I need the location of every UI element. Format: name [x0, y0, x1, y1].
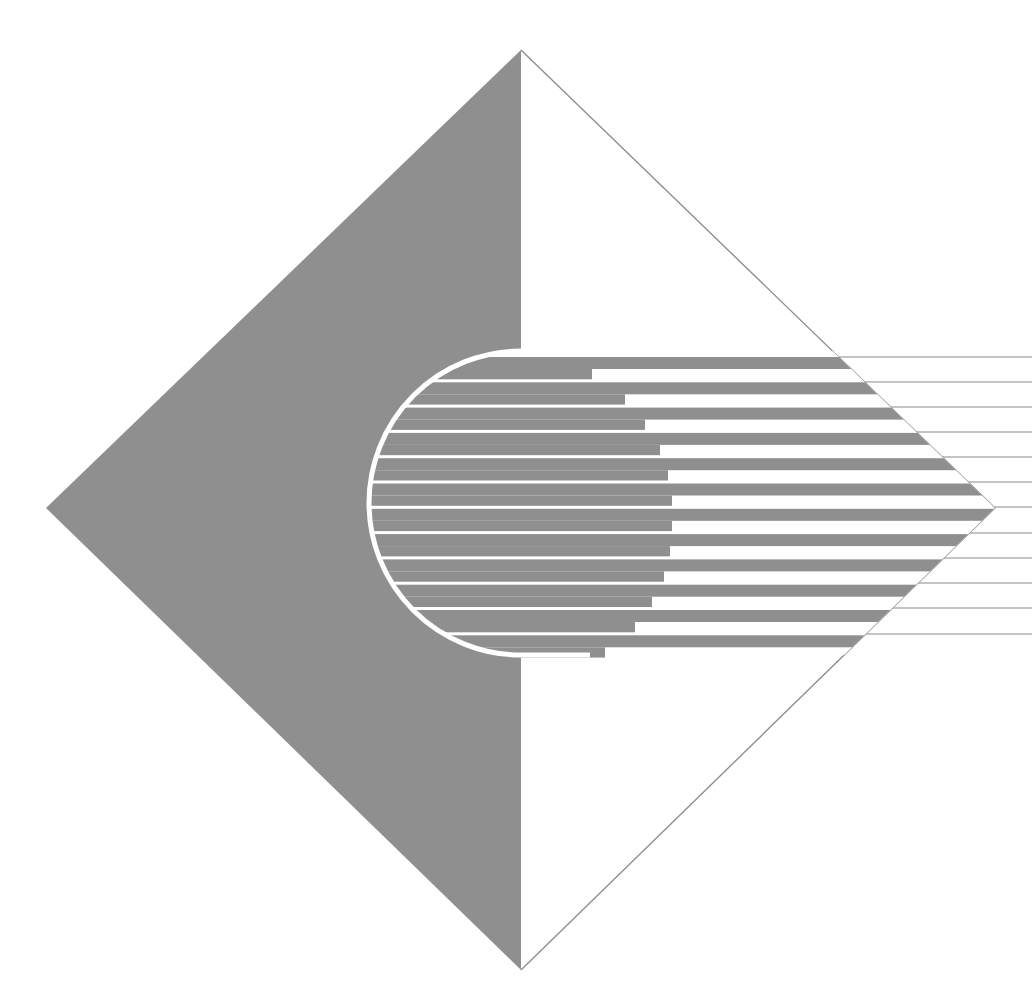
stripe-band — [359, 509, 1000, 521]
stripe-band — [359, 433, 1000, 445]
stripe-step — [359, 622, 635, 632]
stripe-band — [359, 382, 1000, 394]
stripe-band — [359, 534, 1000, 546]
stripe-step — [359, 496, 672, 506]
stripe-band — [359, 559, 1000, 571]
emblem-artwork — [0, 0, 1032, 1004]
stripe-bands — [359, 351, 1000, 658]
stripe-step — [359, 521, 672, 531]
stripe-step — [359, 394, 625, 404]
stripe-step — [359, 369, 592, 379]
stripe-step — [359, 546, 670, 556]
stripe-band — [359, 458, 1000, 470]
stripe-band — [359, 408, 1000, 420]
stripe-step — [359, 470, 668, 480]
stripe-step — [359, 420, 645, 430]
stripe-band — [359, 585, 1000, 597]
stripe-step — [359, 571, 664, 581]
stripe-band — [359, 484, 1000, 496]
stripe-step — [359, 445, 660, 455]
stripe-band — [359, 610, 1000, 622]
